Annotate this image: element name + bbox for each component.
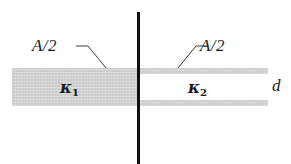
label-kappa1: κ1 bbox=[60, 78, 79, 98]
kappa1-index: 1 bbox=[72, 87, 79, 98]
kappa2-index: 2 bbox=[200, 87, 207, 98]
label-kappa2: κ2 bbox=[188, 78, 207, 98]
leader-left-path bbox=[76, 46, 106, 68]
kappa2-symbol: κ bbox=[188, 78, 200, 97]
label-area-left: A/2 bbox=[32, 36, 57, 56]
label-thickness-d: d bbox=[272, 76, 281, 96]
label-area-right: A/2 bbox=[200, 36, 225, 56]
center-plate-line bbox=[137, 12, 140, 164]
kappa1-symbol: κ bbox=[60, 78, 72, 97]
texture-overlay-band-bottom bbox=[138, 100, 268, 106]
leader-line-left bbox=[76, 44, 112, 70]
capacitor-dielectric-figure: A/2 A/2 κ1 κ2 d bbox=[0, 0, 291, 164]
plate-band-bottom-right bbox=[138, 100, 268, 106]
